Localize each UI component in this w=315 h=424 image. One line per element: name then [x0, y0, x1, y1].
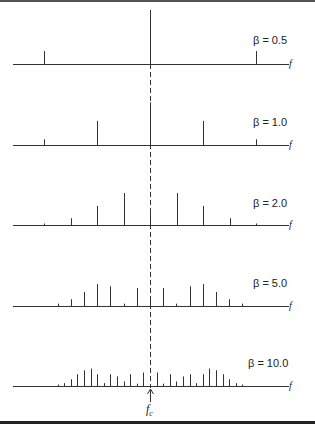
beta-label-2: β = 2.0	[253, 197, 287, 209]
beta-label-1: β = 1.0	[253, 116, 287, 128]
carrier-subscript: c	[149, 409, 153, 418]
axis-label-f-4: f	[289, 380, 292, 391]
axis-label-f-2: f	[289, 219, 292, 230]
axis-label-f-3: f	[289, 300, 292, 311]
fm-spectrum-diagram: β = 0.5 β = 1.0 β = 2.0 β = 5.0 β = 10.0…	[0, 0, 315, 424]
axis-label-f-1: f	[289, 139, 292, 150]
beta-label-0: β = 0.5	[253, 34, 287, 46]
axis-label-f-0: f	[289, 58, 292, 69]
carrier-frequency-label: fc	[146, 402, 153, 418]
beta-label-4: β = 10.0	[248, 357, 288, 369]
beta-label-3: β = 5.0	[253, 277, 287, 289]
